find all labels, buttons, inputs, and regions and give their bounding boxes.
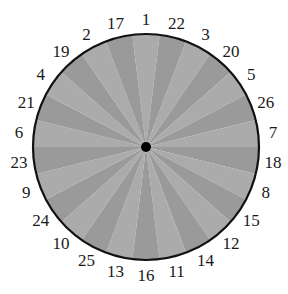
wheel-number-label: 5: [247, 65, 256, 84]
wheel-number-label: 10: [53, 234, 70, 253]
center-hub-dot: [141, 142, 151, 152]
wheel-number-label: 14: [197, 251, 215, 270]
wheel-number-label: 13: [107, 262, 124, 281]
wheel-number-label: 17: [107, 14, 125, 33]
wheel-number-label: 3: [201, 25, 210, 44]
wheel-number-label: 22: [168, 14, 185, 33]
wheel-number-label: 21: [18, 93, 35, 112]
wheel-number-label: 16: [138, 266, 155, 285]
wheel-number-label: 1: [142, 10, 151, 29]
numbered-wheel-diagram: 1223205267188151214111613251024923621419…: [0, 0, 288, 294]
wheel-number-label: 9: [22, 183, 31, 202]
wheel-number-label: 20: [222, 42, 239, 61]
wheel-number-label: 7: [269, 123, 278, 142]
wheel-number-label: 2: [82, 25, 91, 44]
wheel-number-label: 23: [10, 153, 27, 172]
wheel-number-label: 15: [243, 211, 260, 230]
wheel-number-label: 8: [261, 183, 270, 202]
wheel-number-label: 4: [36, 65, 45, 84]
wheel-number-label: 12: [222, 234, 239, 253]
wheel-number-label: 24: [32, 211, 50, 230]
wheel-number-label: 26: [257, 93, 274, 112]
wheel-number-label: 18: [265, 153, 282, 172]
wheel-number-label: 19: [53, 42, 70, 61]
wheel-number-label: 6: [15, 123, 24, 142]
wheel-number-label: 25: [78, 251, 95, 270]
wheel-number-label: 11: [168, 262, 184, 281]
